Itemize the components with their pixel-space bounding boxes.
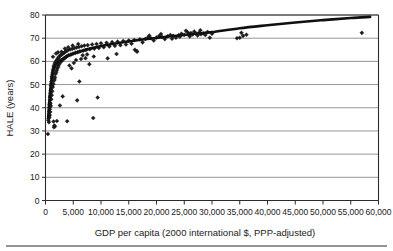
y-tick-label-0: 0 — [35, 196, 40, 206]
x-tick-label-10000: 10,000 — [88, 207, 114, 217]
data-point — [86, 43, 90, 47]
data-point — [51, 55, 55, 59]
x-tick-label-20000: 20,000 — [144, 207, 170, 217]
x-tick-label-0: 0 — [43, 207, 48, 217]
gridlines — [46, 15, 379, 177]
x-tick-label-5000: 5,000 — [63, 207, 85, 217]
data-point — [79, 57, 83, 61]
y-tick-label-70: 70 — [30, 33, 40, 43]
data-point — [65, 119, 69, 123]
x-tick-labels: 05,00010,00015,00020,00025,00030,00035,0… — [43, 207, 392, 217]
x-tick-label-15000: 15,000 — [116, 207, 142, 217]
data-point — [92, 54, 96, 58]
data-point — [46, 132, 50, 136]
x-axis-title: GDP per capita (2000 international $, PP… — [95, 227, 316, 238]
x-tick-label-25000: 25,000 — [171, 207, 197, 217]
x-tick-label-55000: 55,000 — [338, 207, 364, 217]
y-tick-label-40: 40 — [30, 103, 40, 113]
data-point — [91, 116, 95, 120]
data-point — [208, 36, 212, 40]
data-points — [46, 28, 364, 136]
x-tick-label-30000: 30,000 — [199, 207, 225, 217]
y-axis-title: HALE (years) — [4, 79, 15, 136]
x-tick-label-40000: 40,000 — [255, 207, 281, 217]
x-tickmarks — [46, 201, 379, 205]
y-tick-label-60: 60 — [30, 56, 40, 66]
data-point — [360, 31, 364, 35]
trend-line — [48, 17, 370, 117]
data-point — [77, 80, 81, 84]
y-tick-label-80: 80 — [30, 10, 40, 20]
x-tick-label-35000: 35,000 — [227, 207, 253, 217]
y-tick-label-50: 50 — [30, 80, 40, 90]
data-point — [55, 119, 59, 123]
x-tick-label-60000: 60,000 — [366, 207, 392, 217]
data-point — [106, 56, 110, 60]
data-point — [87, 62, 91, 66]
chart-figure: 01020304050607080 05,00010,00015,00020,0… — [0, 0, 393, 251]
data-point — [90, 42, 94, 46]
data-point — [52, 119, 56, 123]
y-tick-label-10: 10 — [30, 172, 40, 182]
y-tick-labels: 01020304050607080 — [30, 10, 40, 206]
data-point — [114, 52, 118, 56]
data-point — [61, 94, 65, 98]
scatter-chart: 01020304050607080 05,00010,00015,00020,0… — [0, 0, 393, 251]
data-point — [75, 98, 79, 102]
data-point — [96, 96, 100, 100]
data-point — [85, 52, 89, 56]
data-point — [238, 36, 242, 40]
x-tick-label-50000: 50,000 — [310, 207, 336, 217]
y-tick-label-20: 20 — [30, 149, 40, 159]
data-point — [83, 56, 87, 60]
data-point — [58, 103, 62, 107]
y-tick-label-30: 30 — [30, 126, 40, 136]
x-tick-label-45000: 45,000 — [282, 207, 308, 217]
data-point — [81, 53, 85, 57]
